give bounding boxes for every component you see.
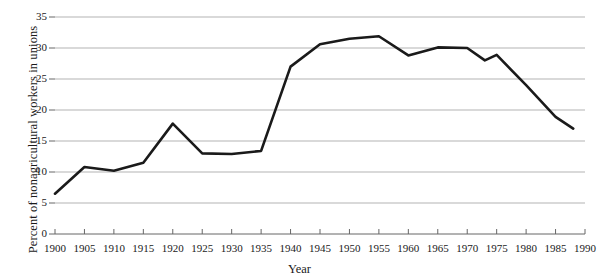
data-line-union-membership [55, 36, 573, 193]
x-axis-ticks [49, 17, 585, 234]
chart-plot-area [0, 0, 599, 279]
y-axis-title: Percent of nonagricultural workers in un… [22, 0, 44, 279]
x-tick-label: 1990 [568, 242, 599, 254]
chart-container: 05101520253035 1900190519101915192019251… [0, 0, 599, 279]
x-axis-title: Year [0, 262, 599, 277]
